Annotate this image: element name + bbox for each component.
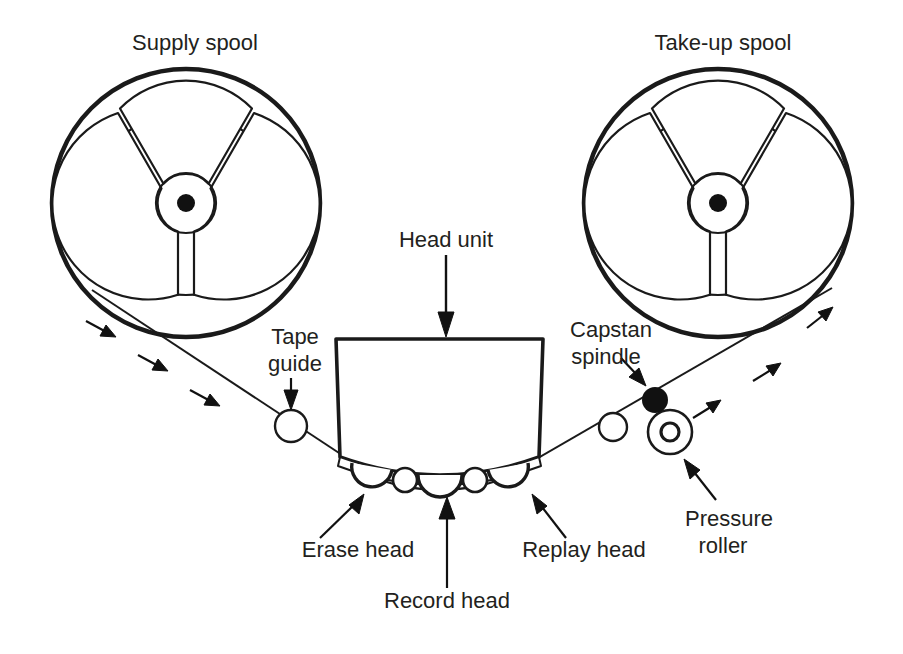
take-up-spool-spokes (584, 81, 851, 300)
supply-spool-spokes (52, 81, 319, 300)
label-record-head: Record head (384, 588, 510, 613)
tape-guide-left-icon (275, 410, 307, 442)
tape-guide-right-icon (599, 413, 627, 441)
tape-direction-arrow-right-1 (693, 400, 721, 418)
label-pressure-roller-line2: roller (699, 533, 748, 558)
label-head-unit: Head unit (399, 227, 493, 252)
tape-direction-arrow-right-3 (807, 307, 833, 328)
head-roller-left (393, 468, 417, 492)
supply-spool (52, 69, 320, 337)
capstan-spindle (642, 387, 668, 413)
head-unit-leader (438, 255, 454, 337)
tape-direction-arrow-right-2 (753, 363, 781, 381)
tape-direction-arrow-left-3 (190, 390, 220, 406)
replay-head-leader (532, 494, 566, 538)
label-tape-guide-line2: guide (268, 351, 322, 376)
label-pressure-roller-line1: Pressure (685, 506, 773, 531)
head-unit-body (336, 339, 543, 475)
tape-guide-leader (284, 378, 298, 410)
label-replay-head: Replay head (522, 537, 646, 562)
tape-transport-diagram: Supply spool Take-up spool Head unit Tap… (0, 0, 903, 654)
head-roller-right (463, 468, 487, 492)
label-capstan-line1: Capstan (570, 317, 652, 342)
label-capstan-line2: spindle (571, 344, 641, 369)
pressure-roller (648, 410, 692, 454)
label-supply-spool: Supply spool (132, 30, 258, 55)
take-up-spool (584, 69, 852, 337)
take-up-spool-center-dot (709, 194, 727, 212)
supply-spool-center-dot (177, 194, 195, 212)
erase-head-leader (320, 494, 364, 538)
diagram-canvas: Supply spool Take-up spool Head unit Tap… (0, 0, 903, 654)
label-tape-guide-line1: Tape (271, 324, 319, 349)
pressure-roller-leader (684, 459, 716, 500)
record-head-leader (439, 497, 455, 588)
tape-direction-arrow-left-2 (138, 355, 168, 371)
pressure-roller-inner (661, 423, 679, 441)
label-take-up-spool: Take-up spool (655, 30, 792, 55)
tape-direction-arrows-right (693, 307, 833, 418)
tape-direction-arrow-left-1 (86, 321, 116, 337)
head-unit (336, 339, 543, 497)
label-erase-head: Erase head (302, 537, 415, 562)
record-head (418, 475, 462, 497)
